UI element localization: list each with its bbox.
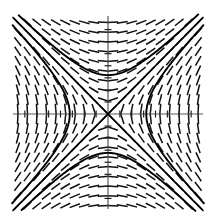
slope-segment bbox=[107, 22, 118, 23]
slope-segment bbox=[107, 51, 118, 52]
slope-segment bbox=[107, 60, 118, 61]
slope-segment bbox=[98, 176, 109, 177]
slope-segment bbox=[27, 104, 28, 115]
slope-segment bbox=[107, 32, 118, 33]
slope-segment bbox=[98, 32, 109, 33]
slope-segment bbox=[188, 113, 189, 124]
slope-segment bbox=[107, 167, 118, 168]
slope-segment bbox=[160, 104, 161, 115]
slope-segment bbox=[98, 196, 109, 197]
slope-segment bbox=[55, 113, 56, 124]
slope-segment bbox=[46, 104, 47, 115]
slope-segment bbox=[188, 104, 189, 115]
slope-segment bbox=[55, 104, 56, 115]
slope-segment bbox=[107, 196, 118, 197]
slope-segment bbox=[169, 113, 170, 124]
slope-segment bbox=[98, 60, 109, 61]
slope-segment bbox=[107, 205, 118, 206]
slope-segment bbox=[98, 22, 109, 23]
slope-segment bbox=[98, 167, 109, 168]
slope-segment bbox=[17, 104, 18, 115]
slope-segment bbox=[46, 113, 47, 124]
slope-segment bbox=[107, 176, 118, 177]
slope-segment bbox=[98, 51, 109, 52]
slope-segment bbox=[27, 113, 28, 124]
slope-field-plot bbox=[0, 0, 215, 223]
slope-segment bbox=[198, 104, 199, 115]
slope-segment bbox=[98, 205, 109, 206]
slope-segment bbox=[169, 104, 170, 115]
slope-segment bbox=[17, 113, 18, 124]
slope-segment bbox=[160, 113, 161, 124]
slope-segment bbox=[198, 113, 199, 124]
slope-field-figure bbox=[0, 0, 215, 223]
